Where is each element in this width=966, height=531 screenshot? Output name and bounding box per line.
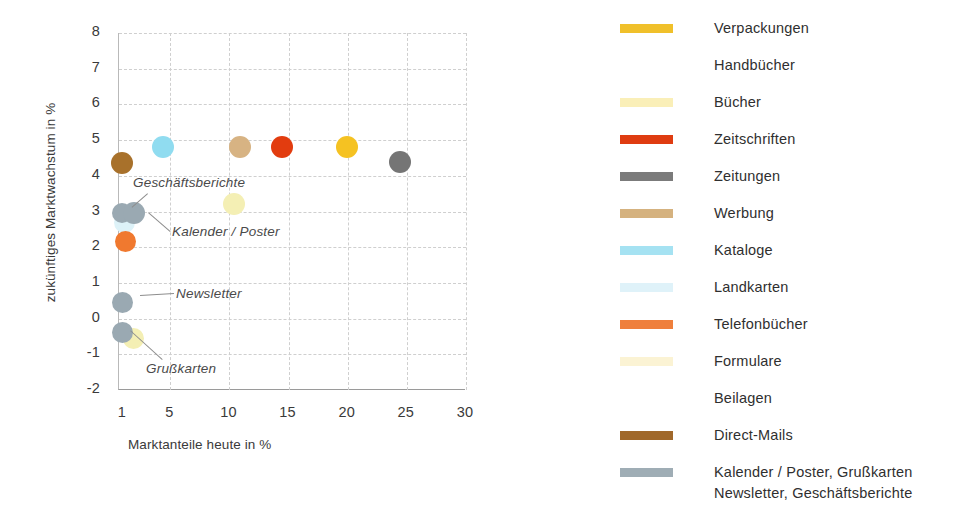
legend-item[interactable]: Zeitschriften [620,129,966,155]
data-point [389,151,411,173]
legend-item[interactable]: Landkarten [620,277,966,303]
data-point [271,136,293,158]
gridline-vertical [170,33,171,390]
point-annotation-label: Kalender / Poster [172,224,280,239]
data-point [112,292,133,313]
legend-color-swatch [620,468,673,477]
x-axis-tick-label: 30 [445,404,485,420]
y-axis-tick-label: -1 [40,344,100,360]
legend-item[interactable]: Formulare [620,351,966,377]
legend-color-swatch [620,357,673,366]
legend-color-swatch [620,320,673,329]
y-axis-tick-label: 7 [40,59,100,75]
legend-item[interactable]: Zeitungen [620,166,966,192]
legend-item[interactable]: Handbücher [620,55,966,81]
legend-item[interactable]: Werbung [620,203,966,229]
legend-item-label: Telefonbücher [714,314,808,334]
legend-item[interactable]: Kataloge [620,240,966,266]
x-axis-title: Marktanteile heute in % [128,437,271,452]
x-axis-tick-label: 15 [268,404,308,420]
legend-item-label: Bücher [714,92,761,112]
legend-item-label: Zeitschriften [714,129,796,149]
point-annotation-label: Geschäftsberichte [133,175,245,190]
y-axis-tick-label: 1 [40,273,100,289]
legend-color-swatch [620,172,673,181]
legend-color-swatch [620,98,673,107]
legend-item[interactable]: Bücher [620,92,966,118]
legend-item-label: Direct-Mails [714,425,793,445]
y-axis-tick-label: 0 [40,309,100,325]
legend-item-label: Kataloge [714,240,773,260]
legend-color-swatch [620,61,673,70]
point-annotation-label: Grußkarten [146,361,216,376]
x-axis-tick-label: 1 [102,404,142,420]
plot-area [118,33,465,390]
legend-color-swatch [620,135,673,144]
legend-item-label: Werbung [714,203,774,223]
chart-legend: VerpackungenHandbücherBücherZeitschrifte… [620,18,966,518]
legend-item[interactable]: Beilagen [620,388,966,414]
legend-item-label: Formulare [714,351,782,371]
x-axis-tick-label: 20 [327,404,367,420]
legend-color-swatch [620,209,673,218]
gridline-vertical [348,33,349,390]
legend-item-label: Verpackungen [714,18,809,38]
legend-item[interactable]: Verpackungen [620,18,966,44]
y-axis-tick-label: 6 [40,94,100,110]
x-axis-tick-label: 25 [386,404,426,420]
legend-item-label: Zeitungen [714,166,780,186]
legend-item-label: Landkarten [714,277,789,297]
y-axis-tick-label: -2 [40,380,100,396]
legend-item-label: Handbücher [714,55,795,75]
x-axis-tick-label: 10 [208,404,248,420]
gridline-vertical [466,33,467,390]
legend-item[interactable]: Direct-Mails [620,425,966,451]
legend-item-label: Beilagen [714,388,772,408]
y-axis-tick-label: 8 [40,23,100,39]
data-point [112,322,133,343]
legend-color-swatch [620,246,673,255]
y-axis-tick-label: 4 [40,166,100,182]
data-point [336,136,358,158]
point-annotation-label: Newsletter [176,286,242,301]
y-axis-tick-label: 3 [40,202,100,218]
y-axis-tick-label: 5 [40,130,100,146]
legend-color-swatch [620,283,673,292]
scatter-chart: zukünftiges Marktwachstum in % Marktante… [0,0,600,531]
legend-item[interactable]: Telefonbücher [620,314,966,340]
gridline-vertical [289,33,290,390]
legend-item[interactable]: Kalender / Poster, GrußkartenNewsletter,… [620,462,966,488]
legend-color-swatch [620,24,673,33]
legend-color-swatch [620,394,673,403]
y-axis-tick-label: 2 [40,237,100,253]
legend-item-label: Kalender / Poster, GrußkartenNewsletter,… [714,462,912,504]
legend-color-swatch [620,431,673,440]
x-axis-tick-label: 5 [149,404,189,420]
gridline-vertical [407,33,408,390]
